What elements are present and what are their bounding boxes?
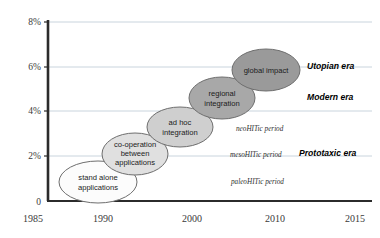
bubble-label-line-1: global impact: [244, 66, 290, 75]
bubble-label-line-2: integration: [162, 128, 197, 137]
era-label-modern: Modern era: [307, 92, 354, 102]
x-tick-label-2015: 2015: [345, 213, 365, 224]
period-label-neohitic: neoHITic period: [236, 125, 284, 133]
y-tick-label-4: 4%: [28, 106, 41, 116]
y-tick-label-8: 8%: [28, 17, 41, 27]
bubble-label-line-3: applications: [115, 158, 155, 167]
bubble-global-impact: global impact: [232, 49, 300, 91]
chart-svg: 8% 6% 4% 2% 0 1985 1990 2000 2010 2015 s…: [0, 0, 380, 238]
x-tick-label-2010: 2010: [265, 213, 285, 224]
x-tick-label-1985: 1985: [23, 213, 43, 224]
y-tick-label-6: 6%: [28, 62, 41, 72]
bubble-label-line-2: integration: [204, 99, 239, 108]
era-label-utopian: Utopian era: [307, 61, 354, 71]
bubble-label-line-2: applications: [78, 183, 118, 192]
y-tick-label-0: 0: [36, 197, 41, 207]
bubble-label-line-1: co-operation: [114, 140, 156, 149]
y-tick-label-2: 2%: [28, 151, 41, 161]
bubble-label-line-2: between: [121, 149, 150, 158]
era-label-prototaxic: Prototaxic era: [299, 148, 357, 158]
bubble-label-line-1: regional: [208, 89, 235, 98]
chart-container: 8% 6% 4% 2% 0 1985 1990 2000 2010 2015 s…: [0, 0, 380, 238]
bubble-label-line-1: ad hoc: [169, 118, 192, 127]
x-tick-label-1990: 1990: [93, 213, 113, 224]
period-label-mesohitic: mesoHITic period: [230, 151, 282, 159]
period-label-paleohitic: paleoHITic period: [230, 178, 284, 186]
x-tick-label-2000: 2000: [182, 213, 202, 224]
bubble-label-line-1: stand alone: [78, 173, 117, 182]
